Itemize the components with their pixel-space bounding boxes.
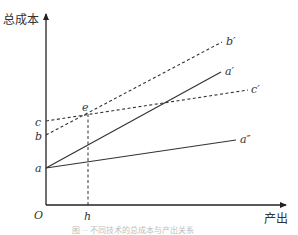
line-a-double-prime <box>46 140 236 168</box>
label-a-double-prime: a″ <box>240 133 252 146</box>
x-axis-label: 产出 <box>264 212 288 226</box>
label-e: e <box>82 101 89 114</box>
origin-label: O <box>34 209 43 222</box>
line-b-prime <box>46 42 222 135</box>
figure-caption: 图 ·· 不同技术的总成本与产出关系 <box>72 225 194 235</box>
label-c-prime: c′ <box>251 83 260 96</box>
label-b-prime: b′ <box>226 35 236 48</box>
line-c-prime <box>46 90 248 121</box>
label-h: h <box>84 210 91 223</box>
label-c: c <box>35 116 41 129</box>
cost-curves-diagram: 总成本 产出 O a b c b′ a′ c′ a″ e h 图 ·· 不同技术… <box>0 0 298 235</box>
label-b: b <box>35 130 42 143</box>
label-a-prime: a′ <box>225 65 235 78</box>
line-a-prime <box>46 72 221 168</box>
label-a: a <box>35 162 42 175</box>
y-axis-label: 总成本 <box>3 13 39 27</box>
